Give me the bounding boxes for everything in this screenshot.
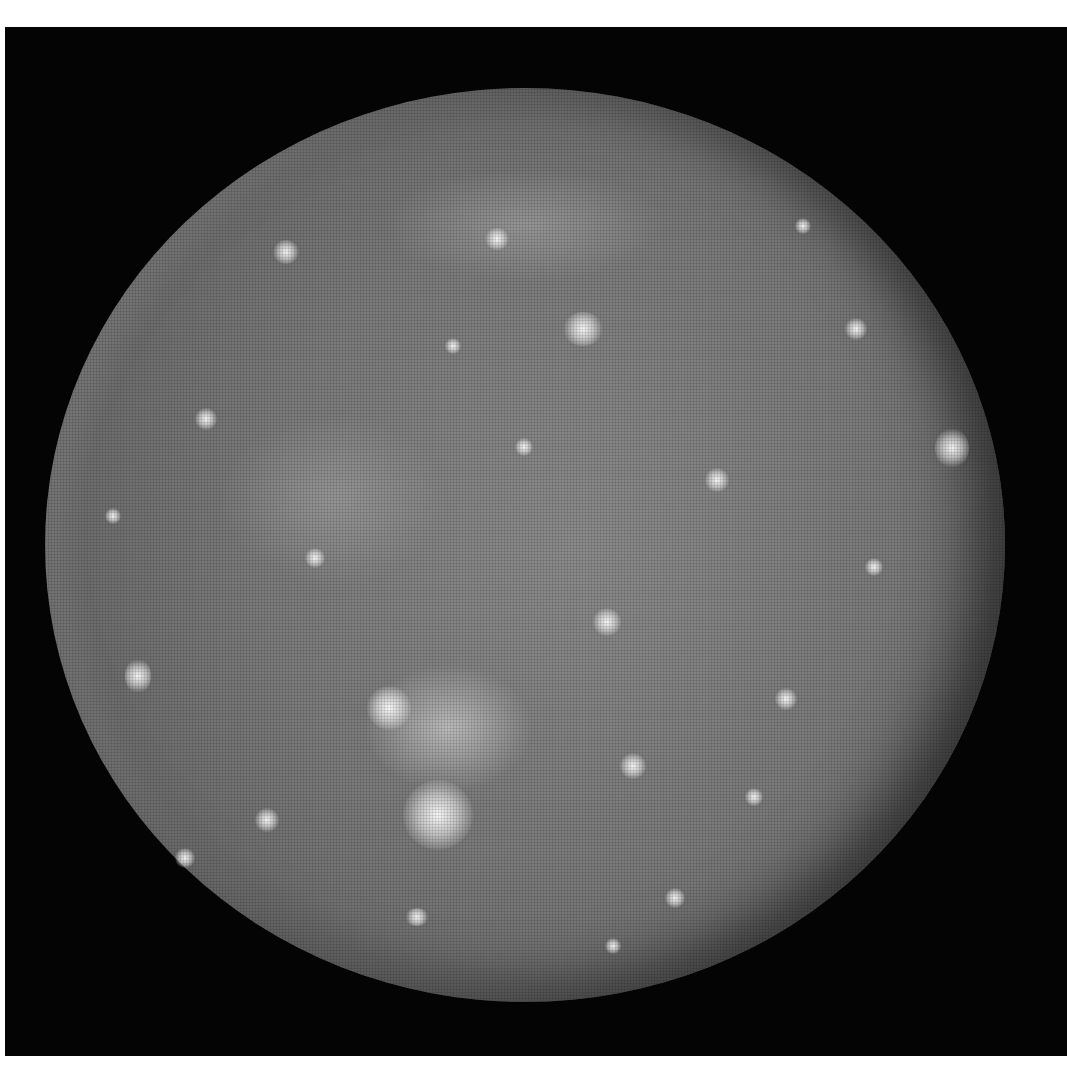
photo-frame — [5, 27, 1067, 1056]
film-grain-overlay — [45, 88, 1005, 1002]
moon-disc — [45, 88, 1005, 1002]
